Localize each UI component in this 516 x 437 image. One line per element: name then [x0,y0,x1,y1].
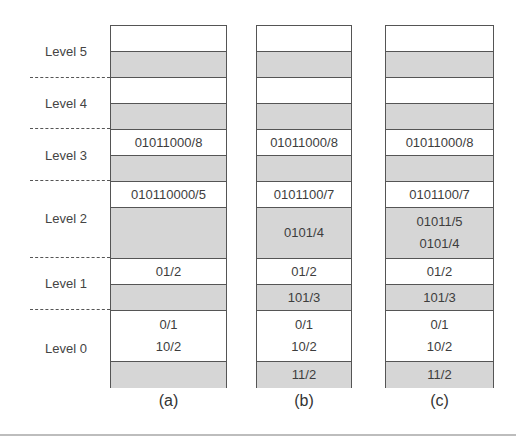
prefix-entry: 10/2 [156,339,181,355]
prefix-entry: 010110000/5 [131,187,206,203]
table-cell: 01/2 [111,259,226,285]
prefix-entry: 0/1 [159,317,177,333]
prefix-entry: 101/3 [423,290,456,306]
level-label-0: Level 0 [30,341,102,356]
prefix-entry: 01/2 [291,264,316,280]
table-cell: 0101/4 [257,208,351,259]
prefix-entry: 01/2 [427,264,452,280]
caption-b: (b) [256,392,352,410]
table-cell: 01011000/8 [111,130,226,156]
table-column-c: 01011000/80101100/701011/50101/401/2101/… [385,25,494,388]
table-cell [111,104,226,130]
table-cell: 11/2 [257,362,351,388]
table-cell [111,26,226,52]
level-separator [30,77,110,78]
prefix-entry: 10/2 [291,339,316,355]
level-label-5: Level 5 [30,44,102,59]
prefix-entry: 0101100/7 [274,187,335,203]
prefix-entry: 01011/5 [416,214,462,230]
table-cell [257,78,351,104]
table-cell [386,156,493,182]
table-cell [257,104,351,130]
table-cell: 0/110/2 [257,311,351,362]
level-label-3: Level 3 [30,148,102,163]
table-cell [386,26,493,52]
caption-a: (a) [110,392,227,410]
prefix-entry: 01011000/8 [135,135,203,151]
level-label-1: Level 1 [30,276,102,291]
table-cell: 01011000/8 [386,130,493,156]
prefix-entry: 01011000/8 [270,135,338,151]
table-cell [257,26,351,52]
table-cell: 11/2 [386,362,493,388]
level-label-2: Level 2 [30,211,102,226]
table-cell: 01011000/8 [257,130,351,156]
table-cell [111,362,226,388]
table-cell [111,78,226,104]
table-cell: 0/110/2 [386,311,493,362]
table-cell: 0101100/7 [386,182,493,208]
table-cell: 101/3 [257,285,351,311]
table-cell: 01011/50101/4 [386,208,493,259]
prefix-entry: 0101100/7 [409,187,470,203]
prefix-entry: 0101/4 [284,225,324,241]
prefix-entry: 101/3 [288,290,321,306]
prefix-entry: 0/1 [430,317,448,333]
level-separator [30,309,110,310]
table-cell: 01/2 [386,259,493,285]
level-separator [30,180,110,181]
table-column-b: 01011000/80101100/70101/401/2101/30/110/… [256,25,352,388]
level-separator [30,257,110,258]
table-cell [257,52,351,78]
table-cell [257,156,351,182]
table-cell [386,78,493,104]
table-cell [111,208,226,259]
prefix-entry: 01/2 [156,264,181,280]
level-label-4: Level 4 [30,96,102,111]
bottom-rule [0,434,516,436]
table-cell: 0101100/7 [257,182,351,208]
table-cell [386,104,493,130]
prefix-entry: 11/2 [427,367,451,383]
caption-c: (c) [385,392,494,410]
table-cell: 0/110/2 [111,311,226,362]
level-separator [30,128,110,129]
table-cell: 010110000/5 [111,182,226,208]
prefix-entry: 0/1 [295,317,313,333]
table-cell: 01/2 [257,259,351,285]
table-cell [111,156,226,182]
prefix-entry: 01011000/8 [406,135,474,151]
table-cell [386,52,493,78]
table-cell [111,52,226,78]
prefix-entry: 10/2 [427,339,452,355]
prefix-entry: 11/2 [292,367,316,383]
prefix-entry: 0101/4 [420,236,460,252]
table-column-a: 01011000/8010110000/501/20/110/2 [110,25,227,388]
table-cell [111,285,226,311]
table-cell: 101/3 [386,285,493,311]
